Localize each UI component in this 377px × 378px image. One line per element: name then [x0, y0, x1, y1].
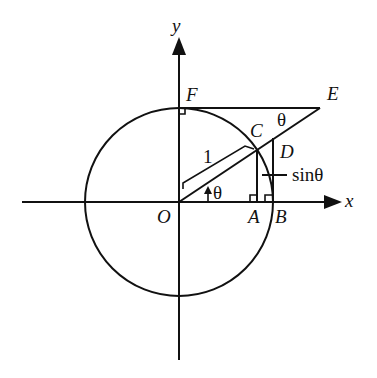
right-angle-mark-A: [250, 195, 257, 202]
x-axis-label: x: [344, 190, 354, 211]
unit-circle-diagram: y x F E C D O A B 1 θ θ sinθ: [0, 0, 377, 378]
right-angle-mark-B: [265, 195, 273, 202]
point-label-D: D: [279, 141, 294, 162]
point-label-A: A: [246, 206, 260, 227]
radius-label: 1: [203, 146, 213, 167]
y-axis-arrow-icon: [172, 37, 186, 55]
angle-theta-arrow: [204, 186, 212, 201]
point-label-E: E: [326, 83, 339, 104]
angle-arrow-icon: [204, 186, 212, 194]
y-axis-label: y: [170, 15, 181, 36]
point-label-C: C: [250, 120, 263, 141]
point-label-F: F: [185, 84, 198, 105]
x-axis: [22, 195, 342, 209]
point-label-B: B: [275, 206, 287, 227]
sin-theta-label: sinθ: [292, 164, 323, 185]
angle-label-E: θ: [277, 109, 286, 130]
point-label-O: O: [157, 206, 171, 227]
angle-label-O: θ: [213, 182, 222, 203]
x-axis-arrow-icon: [324, 195, 342, 209]
